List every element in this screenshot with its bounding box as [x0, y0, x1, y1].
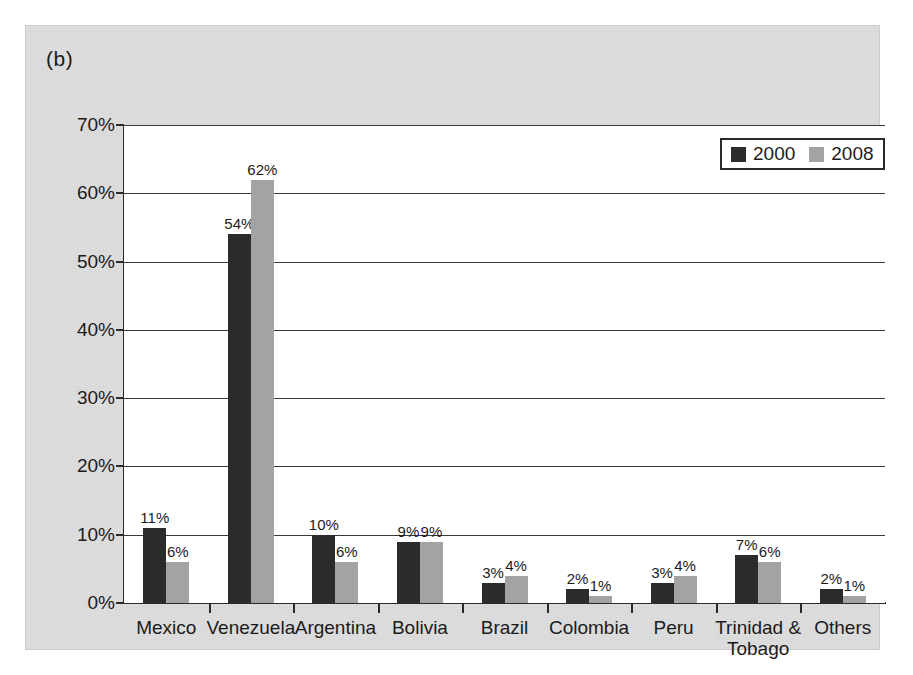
bar-group: 54%62%: [228, 125, 274, 603]
bar[interactable]: [166, 562, 189, 603]
x-axis-tick: [209, 604, 211, 613]
x-axis-tick: [800, 604, 802, 613]
x-axis-tick: [378, 604, 380, 613]
bar-value-label: 2%: [820, 570, 842, 587]
bar[interactable]: [335, 562, 358, 603]
x-axis-tick: [547, 604, 549, 613]
legend-swatch-icon: [809, 147, 824, 162]
bar[interactable]: [397, 542, 420, 603]
bar-value-label: 9%: [421, 523, 443, 540]
x-axis-tick-label: Mexico: [136, 617, 196, 638]
bar-value-label: 6%: [759, 543, 781, 560]
bar[interactable]: [674, 576, 697, 603]
bar[interactable]: [843, 596, 866, 603]
bar-value-label: 6%: [336, 543, 358, 560]
x-axis-tick-label: Colombia: [549, 617, 629, 638]
bar-group: 11%6%: [143, 125, 189, 603]
bar-group: 2%1%: [820, 125, 866, 603]
bar[interactable]: [420, 542, 443, 603]
bar[interactable]: [505, 576, 528, 603]
y-axis-tick: [116, 329, 124, 331]
panel-label: (b): [46, 47, 73, 71]
x-axis-tick-label: Brazil: [481, 617, 529, 638]
bar-group: 10%6%: [312, 125, 358, 603]
legend-label: 2000: [753, 143, 795, 165]
legend-item[interactable]: 2000: [731, 143, 795, 165]
bar-value-label: 1%: [590, 577, 612, 594]
bar-value-label: 1%: [843, 577, 865, 594]
figure-panel: (b) 0%10%20%30%40%50%60%70% 11%6%54%62%1…: [25, 25, 880, 650]
y-axis-tick: [116, 124, 124, 126]
bar-group: 9%9%: [397, 125, 443, 603]
bar-group: 3%4%: [651, 125, 697, 603]
bar[interactable]: [312, 535, 335, 603]
bar-group: 3%4%: [482, 125, 528, 603]
bar-group: 2%1%: [566, 125, 612, 603]
bar-value-label: 4%: [505, 557, 527, 574]
bar[interactable]: [589, 596, 612, 603]
y-axis-tick-label: 50%: [55, 251, 115, 273]
y-axis-labels: 0%10%20%30%40%50%60%70%: [53, 125, 115, 603]
y-axis-tick: [116, 465, 124, 467]
y-axis-tick: [116, 192, 124, 194]
bar-value-label: 3%: [482, 564, 504, 581]
bar-value-label: 2%: [567, 570, 589, 587]
bar[interactable]: [482, 583, 505, 603]
y-axis-tick-label: 60%: [55, 182, 115, 204]
bar[interactable]: [228, 234, 251, 603]
bar-value-label: 10%: [309, 516, 339, 533]
bar[interactable]: [651, 583, 674, 603]
x-axis-tick-label: Trinidad & Tobago: [715, 617, 801, 659]
y-axis-tick-label: 20%: [55, 455, 115, 477]
x-axis-tick: [631, 604, 633, 613]
bar[interactable]: [143, 528, 166, 603]
y-axis-tick-label: 40%: [55, 319, 115, 341]
legend-item[interactable]: 2008: [809, 143, 873, 165]
y-axis-tick: [116, 261, 124, 263]
y-axis-tick-label: 0%: [55, 592, 115, 614]
bar-value-label: 6%: [167, 543, 189, 560]
x-axis-tick-label: Others: [814, 617, 871, 638]
bar-value-label: 4%: [674, 557, 696, 574]
x-axis-tick: [462, 604, 464, 613]
x-axis-tick-label: Venezuela: [206, 617, 295, 638]
y-axis-tick-label: 10%: [55, 524, 115, 546]
x-axis-tick-label: Bolivia: [392, 617, 448, 638]
bar[interactable]: [758, 562, 781, 603]
x-axis-tick-label: Peru: [654, 617, 694, 638]
bar[interactable]: [566, 589, 589, 603]
bar-group: 7%6%: [735, 125, 781, 603]
bar-value-label: 11%: [140, 509, 169, 526]
plot-area: 11%6%54%62%10%6%9%9%3%4%2%1%3%4%7%6%2%1%: [124, 125, 885, 603]
bar-value-label: 54%: [224, 215, 254, 232]
bar[interactable]: [735, 555, 758, 603]
x-axis-tick: [716, 604, 718, 613]
bar-value-label: 62%: [247, 161, 277, 178]
y-axis-tick-label: 70%: [55, 114, 115, 136]
legend-label: 2008: [831, 143, 873, 165]
y-axis-tick: [116, 534, 124, 536]
bar-value-label: 7%: [736, 536, 758, 553]
chart-legend: 20002008: [720, 138, 885, 170]
bar[interactable]: [251, 180, 274, 603]
legend-swatch-icon: [731, 147, 746, 162]
x-axis-tick-label: Argentina: [295, 617, 376, 638]
bar-value-label: 3%: [651, 564, 673, 581]
y-axis-tick: [116, 602, 124, 604]
y-axis-tick: [116, 397, 124, 399]
bar-value-label: 9%: [398, 523, 420, 540]
x-axis-tick: [293, 604, 295, 613]
y-axis-tick-label: 30%: [55, 387, 115, 409]
bar[interactable]: [820, 589, 843, 603]
